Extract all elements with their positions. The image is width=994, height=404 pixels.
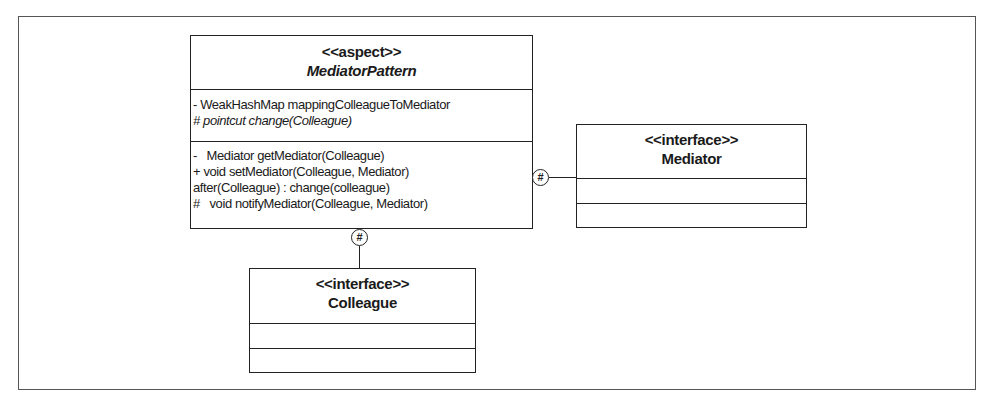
class-mediator-interface: <<interface>> Mediator [576, 124, 807, 228]
stereotype-label: <<interface>> [250, 275, 475, 293]
class-name: Colleague [250, 293, 475, 312]
class-header: <<aspect>> MediatorPattern [191, 36, 532, 89]
class-name: MediatorPattern [191, 61, 532, 80]
advice-after-change: after(Colleague) : change(colleague) [191, 180, 532, 196]
class-name: Mediator [577, 149, 806, 168]
connector-line-colleague [359, 246, 360, 268]
attributes-compartment [250, 323, 475, 348]
nesting-circle-colleague: # [351, 229, 368, 246]
connector-line-mediator [549, 177, 576, 178]
attributes-compartment: - WeakHashMap mappingColleagueToMediator… [191, 89, 532, 141]
stereotype-label: <<interface>> [577, 131, 806, 149]
stereotype-label: <<aspect>> [191, 43, 532, 61]
hash-symbol: # [537, 171, 543, 183]
operation-notify-mediator: # void notifyMediator(Colleague, Mediato… [191, 196, 532, 212]
operation-get-mediator: - Mediator getMediator(Colleague) [191, 148, 532, 164]
attribute-pointcut: # pointcut change(Colleague) [191, 113, 532, 129]
attribute-mapping: - WeakHashMap mappingColleagueToMediator [191, 97, 532, 113]
operations-compartment [577, 203, 806, 227]
class-header: <<interface>> Mediator [577, 125, 806, 178]
attributes-compartment [577, 178, 806, 203]
operation-set-mediator: + void setMediator(Colleague, Mediator) [191, 164, 532, 180]
operations-compartment [250, 348, 475, 372]
hash-symbol: # [356, 231, 362, 243]
class-colleague-interface: <<interface>> Colleague [249, 268, 476, 373]
operations-compartment: - Mediator getMediator(Colleague) + void… [191, 141, 532, 227]
class-header: <<interface>> Colleague [250, 269, 475, 323]
nesting-circle-mediator: # [532, 169, 549, 186]
class-mediator-pattern: <<aspect>> MediatorPattern - WeakHashMap… [190, 35, 533, 229]
